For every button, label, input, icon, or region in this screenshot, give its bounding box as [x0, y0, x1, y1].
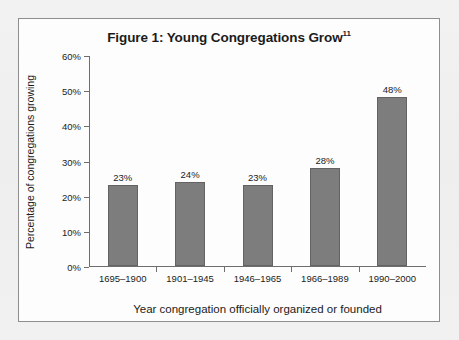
y-axis-tick-mark [84, 267, 89, 268]
bar: 28% [310, 168, 340, 266]
bar: 24% [175, 182, 205, 266]
x-axis-tick-label: 1966–1989 [301, 273, 349, 284]
y-axis-tick-label: 10% [62, 226, 81, 237]
y-axis-tick-label: 0% [67, 262, 81, 273]
x-axis-tick-mark [359, 267, 360, 272]
bar-value-label: 23% [248, 172, 267, 183]
x-axis-tick-mark [156, 267, 157, 272]
bar-value-label: 48% [383, 84, 402, 95]
y-axis-tick-mark [84, 162, 89, 163]
figure-frame: Figure 1: Young Congregations Grow11 Per… [18, 18, 440, 322]
x-axis-tick-label: 1901–1945 [166, 273, 214, 284]
x-axis-tick-mark [224, 267, 225, 272]
y-axis-tick-mark [84, 91, 89, 92]
y-axis-tick-label: 30% [62, 156, 81, 167]
figure-title-footnote-marker: 11 [343, 29, 351, 38]
bar-value-label: 24% [181, 169, 200, 180]
y-axis-tick-label: 40% [62, 121, 81, 132]
x-axis-tick-mark [291, 267, 292, 272]
y-axis-title-text: Percentage of congregations growing [24, 75, 36, 249]
y-axis-tick-mark [84, 56, 89, 57]
bar: 23% [108, 185, 138, 266]
y-axis-tick-label: 20% [62, 191, 81, 202]
x-axis-title-text: Year congregation officially organized o… [133, 303, 382, 315]
figure-title-text: Figure 1: Young Congregations Grow [107, 30, 342, 45]
y-axis-tick-mark [84, 232, 89, 233]
y-axis-title: Percentage of congregations growing [23, 56, 37, 267]
bar-value-label: 28% [315, 155, 334, 166]
y-axis-tick-label: 60% [62, 51, 81, 62]
y-axis-tick-mark [84, 197, 89, 198]
y-axis-tick-mark [84, 126, 89, 127]
bar-value-label: 23% [113, 172, 132, 183]
x-axis-tick-label: 1946–1965 [234, 273, 282, 284]
y-axis-tick-label: 50% [62, 86, 81, 97]
y-axis-line [89, 56, 90, 267]
plot-area: 0%10%20%30%40%50%60% 23%24%23%28%48% 169… [89, 56, 426, 267]
x-axis-line [89, 266, 426, 267]
bar: 48% [377, 97, 407, 266]
x-axis-tick-label: 1990–2000 [369, 273, 417, 284]
figure-title: Figure 1: Young Congregations Grow11 [19, 29, 439, 45]
x-axis-title: Year congregation officially organized o… [89, 303, 426, 315]
x-axis-tick-label: 1695–1900 [99, 273, 147, 284]
bar: 23% [243, 185, 273, 266]
